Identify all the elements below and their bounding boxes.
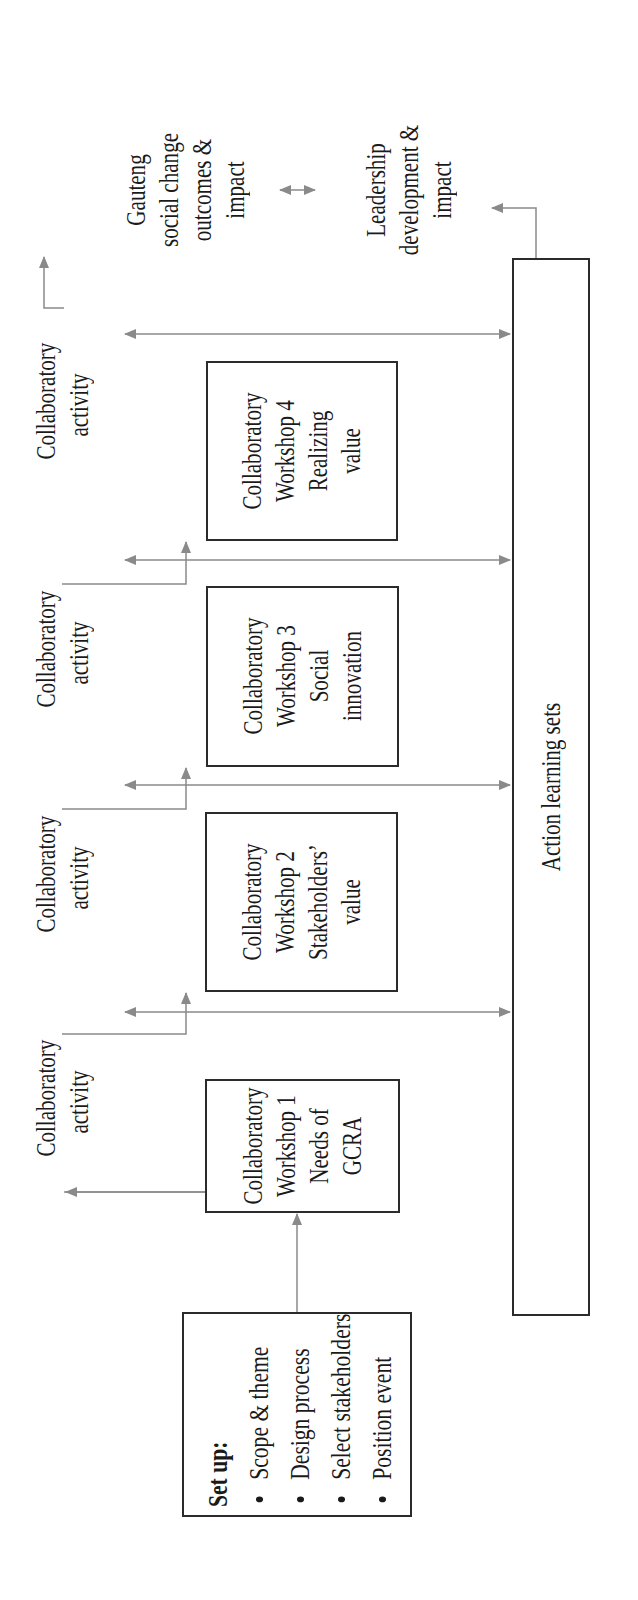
- activity-2-label: Collaboratory activity: [30, 808, 96, 948]
- workshop-1-line1: Collaboratory: [237, 1088, 270, 1205]
- setup-title: Set up:: [198, 1307, 239, 1507]
- activity-1-label: Collaboratory activity: [30, 1032, 96, 1172]
- workshop-4-line1: Collaboratory: [236, 393, 269, 510]
- setup-item-stakeholders: Select stakeholders: [321, 1307, 362, 1507]
- leadership-outcomes-label: Leadership development & impact: [360, 105, 459, 275]
- workshop-3-line1: Collaboratory: [237, 618, 270, 735]
- leadership-line1: Leadership: [360, 124, 393, 257]
- workshop-1-line3: Needs of: [303, 1088, 336, 1205]
- setup-item-position: Position event: [362, 1307, 403, 1507]
- workshop-3-line4: innovation: [336, 618, 369, 735]
- arrow-activity4-to-gauteng: [44, 257, 64, 308]
- activity-4-line1: Collaboratory: [30, 350, 63, 459]
- gauteng-line3: outcomes &: [186, 128, 219, 253]
- workshop-1-line4: GCRA: [336, 1088, 369, 1205]
- workshop-1-line2: Workshop 1: [270, 1088, 303, 1205]
- gauteng-line1: Gauteng: [120, 128, 153, 253]
- arrow-activity2-to-ws3: [62, 768, 186, 809]
- activity-2-line1: Collaboratory: [30, 823, 63, 932]
- setup-box: Set up: Scope & theme Design process Sel…: [182, 1312, 412, 1517]
- activity-1-line2: activity: [63, 1047, 96, 1156]
- activity-1-line1: Collaboratory: [30, 1047, 63, 1156]
- activity-3-label: Collaboratory activity: [30, 583, 96, 723]
- activity-4-line2: activity: [63, 350, 96, 459]
- activity-3-line2: activity: [63, 598, 96, 707]
- activity-4-label: Collaboratory activity: [30, 335, 96, 475]
- gauteng-line2: social change: [153, 128, 186, 253]
- diagram-stage: Set up: Scope & theme Design process Sel…: [0, 0, 638, 1600]
- activity-3-line1: Collaboratory: [30, 598, 63, 707]
- workshop-3-line3: Social: [303, 618, 336, 735]
- arrow-activity3-to-ws4: [62, 542, 186, 584]
- workshop-1-box: Collaboratory Workshop 1 Needs of GCRA: [205, 1079, 400, 1213]
- workshop-3-line2: Workshop 3: [270, 618, 303, 735]
- setup-list: Scope & theme Design process Select stak…: [239, 1307, 403, 1507]
- workshop-2-line2: Workshop 2: [269, 844, 302, 961]
- workshop-2-line1: Collaboratory: [236, 844, 269, 961]
- setup-item-design: Design process: [280, 1307, 321, 1507]
- gauteng-outcomes-label: Gauteng social change outcomes & impact: [120, 110, 252, 270]
- setup-item-scope: Scope & theme: [239, 1307, 280, 1507]
- arrow-activity1-to-ws2: [62, 993, 186, 1034]
- leadership-line2: development &: [393, 124, 426, 257]
- gauteng-line4: impact: [219, 128, 252, 253]
- workshop-2-line3: Stakeholders’: [302, 844, 335, 961]
- workshop-3-box: Collaboratory Workshop 3 Social innovati…: [206, 586, 399, 767]
- workshop-4-line3: Realizing: [302, 393, 335, 510]
- leadership-line3: impact: [426, 124, 459, 257]
- action-learning-sets-label: Action learning sets: [536, 703, 567, 871]
- workshop-4-line4: value: [335, 393, 368, 510]
- action-learning-sets-box: Action learning sets: [512, 258, 590, 1316]
- workshop-4-line2: Workshop 4: [269, 393, 302, 510]
- workshop-4-box: Collaboratory Workshop 4 Realizing value: [206, 361, 398, 541]
- workshop-2-box: Collaboratory Workshop 2 Stakeholders’ v…: [205, 812, 398, 992]
- arrow-action-learning-to-leadership: [492, 208, 536, 258]
- workshop-2-line4: value: [335, 844, 368, 961]
- activity-2-line2: activity: [63, 823, 96, 932]
